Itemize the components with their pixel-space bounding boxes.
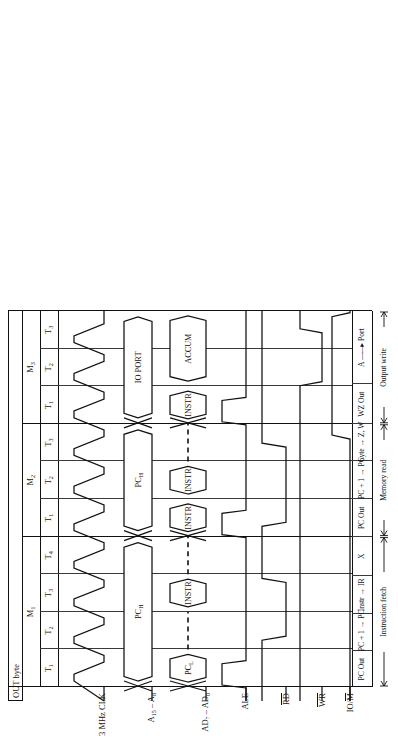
phase-bar-label: Output write: [380, 327, 388, 407]
phase-bar-label: Instruction fetch: [380, 572, 388, 652]
phase-bar-label: Memory read: [380, 440, 388, 520]
